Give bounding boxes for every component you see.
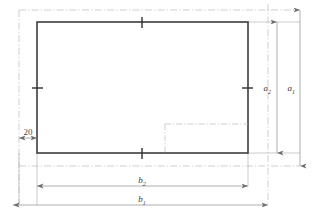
- dimension-diagram: a2 a1 b2 b1 20: [0, 0, 316, 222]
- technical-drawing-canvas: a2 a1 b2 b1 20: [0, 0, 316, 222]
- canvas-background: [0, 0, 316, 222]
- dimension-label-offset-20: 20: [24, 127, 34, 137]
